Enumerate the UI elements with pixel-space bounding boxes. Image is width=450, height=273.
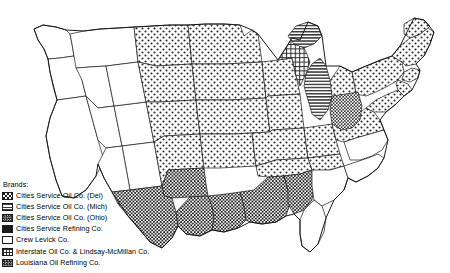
swatch-cities-service-refining (2, 225, 13, 233)
legend-item-louisiana-oil-refining: Louisiana Oil Refining Co. (2, 257, 182, 268)
legend: Brands: Cities Service Oil Co. (Del) Cit… (2, 180, 182, 268)
swatch-cities-service-ohio (2, 214, 13, 222)
legend-item-crew-levick: Crew Levick Co. (2, 235, 182, 246)
legend-item-interstate-lindsay-mcmillan: Interstate Oil Co. & Lindsay-McMillan Co… (2, 246, 182, 257)
legend-item-cities-service-mich: Cities Service Oil Co. (Mich) (2, 201, 182, 212)
legend-item-cities-service-ohio: Cities Service Oil Co. (Ohio) (2, 212, 182, 223)
legend-label: Cities Service Oil Co. (Ohio) (16, 214, 107, 222)
brand-territory-map: Brands: Cities Service Oil Co. (Del) Cit… (0, 0, 450, 273)
legend-label: Crew Levick Co. (16, 236, 69, 244)
plains-midwest-del-states (134, 18, 434, 186)
swatch-cities-service-del (2, 192, 13, 200)
legend-label: Cities Service Refining Co. (16, 225, 103, 233)
legend-label: Louisiana Oil Refining Co. (16, 259, 100, 267)
swatch-crew-levick (2, 236, 13, 244)
legend-label: Cities Service Oil Co. (Mich) (16, 203, 107, 211)
legend-label: Cities Service Oil Co. (Del) (16, 192, 103, 200)
legend-item-cities-service-refining: Cities Service Refining Co. (2, 224, 182, 235)
swatch-cities-service-mich (2, 203, 13, 211)
swatch-interstate-lindsay-mcmillan (2, 248, 13, 256)
legend-item-cities-service-del: Cities Service Oil Co. (Del) (2, 190, 182, 201)
swatch-louisiana-oil-refining (2, 259, 13, 267)
legend-label: Interstate Oil Co. & Lindsay-McMillan Co… (16, 248, 149, 256)
legend-title: Brands: (3, 180, 182, 189)
